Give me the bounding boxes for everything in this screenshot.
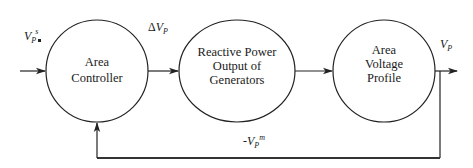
area-voltage-profile-label-line2: Voltage [365, 57, 403, 71]
area-controller-node: Area Controller [46, 20, 148, 122]
area-controller-label-line2: Controller [71, 71, 123, 85]
input-signal-label: VPs [24, 27, 38, 45]
reactive-power-label-line1: Reactive Power [198, 45, 278, 59]
area-controller-label-line1: Area [85, 55, 110, 69]
input-label-dot [38, 39, 41, 42]
reactive-power-label-line3: Generators [210, 73, 265, 87]
feedback-signal-label: -VPm [243, 133, 265, 150]
delta-signal-label: ΔVP [148, 20, 168, 36]
output-signal-label: VP [440, 37, 452, 53]
reactive-power-node: Reactive Power Output of Generators [179, 20, 295, 122]
area-voltage-profile-node: Area Voltage Profile [333, 20, 435, 122]
area-voltage-profile-label-line3: Profile [367, 71, 401, 85]
block-diagram: Area Controller Reactive Power Output of… [0, 0, 473, 168]
area-voltage-profile-label-line1: Area [372, 43, 397, 57]
reactive-power-label-line2: Output of [213, 59, 262, 73]
